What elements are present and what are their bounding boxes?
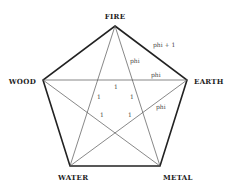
annotation-inner-4: 1: [100, 111, 104, 118]
label-wood: WOOD: [8, 77, 36, 86]
annotation-star-lower: phi: [156, 103, 166, 111]
annotation-inner-2: 1: [97, 93, 101, 100]
label-fire: FIRE: [105, 12, 126, 21]
label-metal: METAL: [163, 173, 193, 182]
label-earth: EARTH: [194, 77, 224, 86]
annotation-chord: phi: [151, 71, 161, 79]
annotation-inner-5: 1: [128, 111, 132, 118]
five-elements-pentagram-diagram: FIRE EARTH WOOD WATER METAL phi + 1 phi …: [0, 0, 232, 188]
annotation-inner-3: 1: [130, 93, 134, 100]
annotation-star-upper: phi: [130, 57, 140, 65]
annotation-side: phi + 1: [153, 41, 175, 49]
label-water: WATER: [57, 173, 88, 182]
diagram-canvas: FIRE EARTH WOOD WATER METAL phi + 1 phi …: [0, 0, 232, 188]
annotation-inner-1: 1: [114, 83, 118, 90]
